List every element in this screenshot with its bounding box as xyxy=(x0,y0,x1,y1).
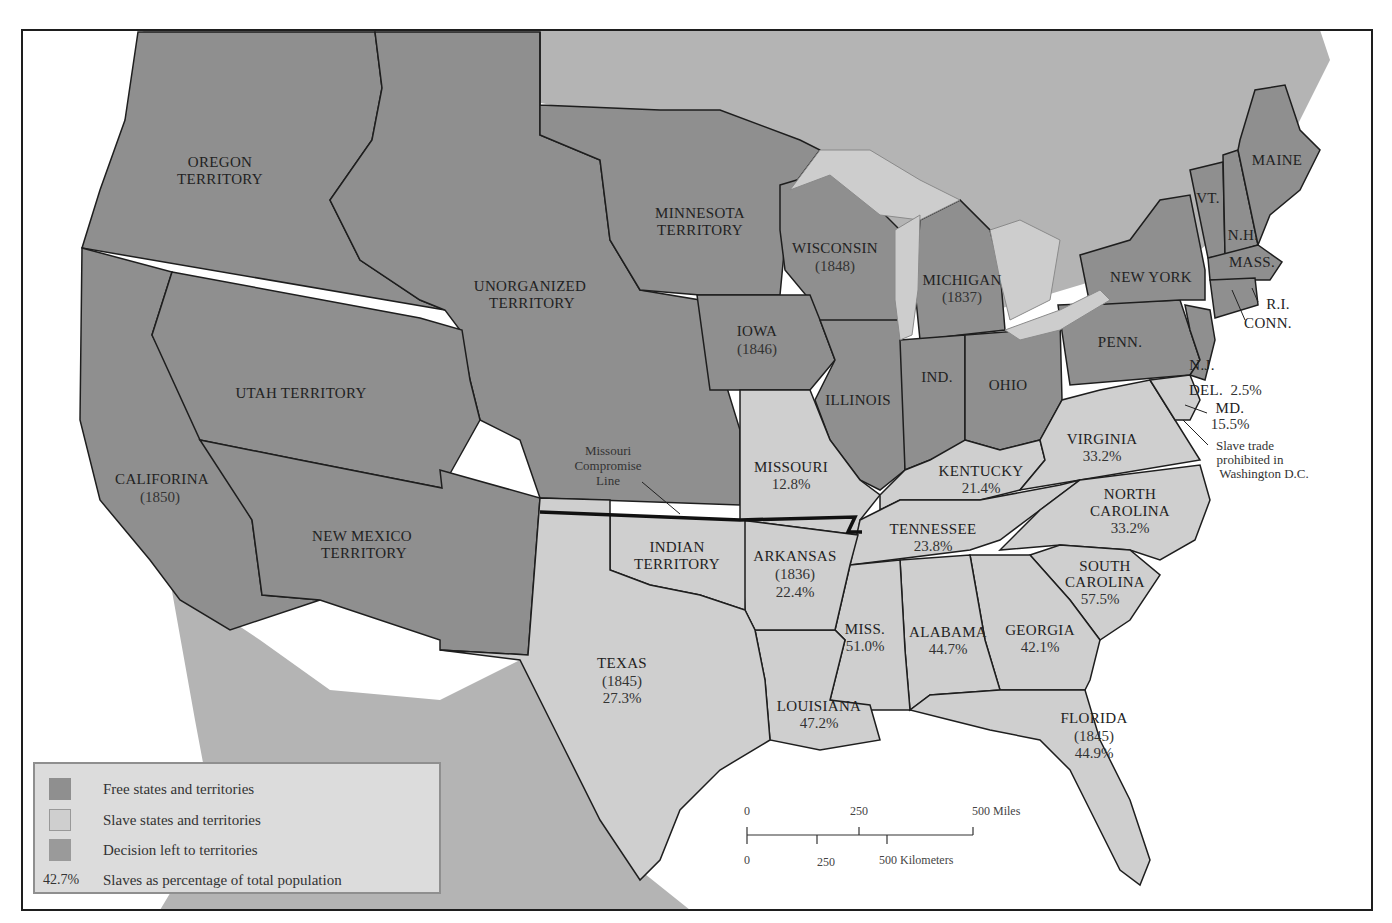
scale-km-250: 250 xyxy=(817,855,835,869)
legend-label-slave: Slave states and territories xyxy=(103,812,261,829)
label-vt: VT. xyxy=(1196,190,1220,206)
scale-miles-500: 500 Miles xyxy=(972,804,1021,818)
label-sc-2: CAROLINA xyxy=(1065,574,1145,590)
label-michigan: MICHIGAN xyxy=(922,272,1001,288)
label-texas-pct: 27.3% xyxy=(603,690,642,706)
legend-swatch-slave xyxy=(49,809,71,831)
label-nc-1: NORTH xyxy=(1104,486,1156,502)
label-arkansas: ARKANSAS xyxy=(753,548,836,564)
legend-item-percentage: 42.7% Slaves as percentage of total popu… xyxy=(35,865,342,895)
label-unorganized-1: UNORGANIZED xyxy=(474,278,586,294)
label-iowa-year: (1846) xyxy=(737,341,777,358)
label-penn: PENN. xyxy=(1098,334,1142,350)
label-missouri-pct: 12.8% xyxy=(772,476,811,492)
legend-item-free: Free states and territories xyxy=(35,774,254,804)
label-texas-year: (1845) xyxy=(602,673,642,690)
label-georgia: GEORGIA xyxy=(1005,622,1075,638)
label-alabama-pct: 44.7% xyxy=(929,641,968,657)
label-california: CALIFORINA xyxy=(115,471,209,487)
label-maine: MAINE xyxy=(1252,152,1303,168)
label-oregon-1: OREGON xyxy=(188,154,252,170)
label-dc-note-1: Slave trade xyxy=(1216,438,1274,453)
label-michigan-year: (1837) xyxy=(942,289,982,306)
label-nc-2: CAROLINA xyxy=(1090,503,1170,519)
label-virginia: VIRGINIA xyxy=(1067,431,1138,447)
label-florida-year: (1845) xyxy=(1074,728,1114,745)
scale-km-0: 0 xyxy=(744,853,750,867)
legend-swatch-decision xyxy=(49,839,71,861)
label-mass: MASS. xyxy=(1229,254,1275,270)
label-alabama: ALABAMA xyxy=(909,624,987,640)
label-minnesota-2: TERRITORY xyxy=(657,222,743,238)
legend-pct-example: 42.7% xyxy=(43,872,93,888)
scale-miles-250: 250 xyxy=(850,804,868,818)
legend-pct-label: Slaves as percentage of total population xyxy=(103,872,342,889)
label-arkansas-year: (1836) xyxy=(775,566,815,583)
label-iowa: IOWA xyxy=(737,323,777,339)
label-indian-2: TERRITORY xyxy=(634,556,720,572)
label-wisconsin: WISCONSIN xyxy=(792,240,878,256)
label-minnesota-1: MINNESOTA xyxy=(655,205,745,221)
label-compromise-2: Compromise xyxy=(574,458,641,473)
label-illinois: ILLINOIS xyxy=(825,392,891,408)
label-md-pct: 15.5% xyxy=(1211,416,1250,432)
label-del-pct: 2.5% xyxy=(1230,382,1261,398)
label-oregon-2: TERRITORY xyxy=(177,171,263,187)
legend-item-decision: Decision left to territories xyxy=(35,835,258,865)
label-louisiana-pct: 47.2% xyxy=(800,715,839,731)
label-wisconsin-year: (1848) xyxy=(815,258,855,275)
label-new-mexico-2: TERRITORY xyxy=(321,545,407,561)
label-sc-pct: 57.5% xyxy=(1081,591,1120,607)
label-georgia-pct: 42.1% xyxy=(1021,639,1060,655)
label-nc-pct: 33.2% xyxy=(1111,520,1150,536)
label-kentucky: KENTUCKY xyxy=(939,463,1024,479)
label-ri: R.I. xyxy=(1266,296,1290,312)
label-texas: TEXAS xyxy=(597,655,647,671)
label-sc-1: SOUTH xyxy=(1079,558,1131,574)
label-miss-pct: 51.0% xyxy=(846,638,885,654)
scale-km-500: 500 Kilometers xyxy=(879,853,954,867)
label-louisiana: LOUISIANA xyxy=(777,698,861,714)
label-tennessee: TENNESSEE xyxy=(890,521,977,537)
label-tennessee-pct: 23.8% xyxy=(914,538,953,554)
label-unorganized-2: TERRITORY xyxy=(489,295,575,311)
label-indian-1: INDIAN xyxy=(649,539,704,555)
legend-item-slave: Slave states and territories xyxy=(35,805,261,835)
label-dc-note-3: Washington D.C. xyxy=(1219,466,1309,481)
label-new-mexico-1: NEW MEXICO xyxy=(312,528,412,544)
label-florida: FLORIDA xyxy=(1060,710,1127,726)
scale-miles-0: 0 xyxy=(744,804,750,818)
label-new-york: NEW YORK xyxy=(1110,269,1192,285)
label-florida-pct: 44.9% xyxy=(1075,745,1114,761)
label-indiana: IND. xyxy=(921,369,953,385)
label-conn: CONN. xyxy=(1244,315,1292,331)
label-virginia-pct: 33.2% xyxy=(1083,448,1122,464)
label-compromise-1: Missouri xyxy=(585,443,632,458)
label-dc-note-2: prohibited in xyxy=(1217,452,1284,467)
label-arkansas-pct: 22.4% xyxy=(776,584,815,600)
label-california-year: (1850) xyxy=(140,489,180,506)
label-del: DEL. xyxy=(1189,382,1223,398)
label-utah: UTAH TERRITORY xyxy=(235,385,366,401)
label-nh: N.H. xyxy=(1228,227,1258,243)
label-nj: N.J. xyxy=(1189,357,1214,373)
legend-label-decision: Decision left to territories xyxy=(103,842,258,859)
label-miss: MISS. xyxy=(845,621,885,637)
legend: Free states and territories Slave states… xyxy=(33,762,441,894)
label-compromise-3: Line xyxy=(596,473,620,488)
label-ohio: OHIO xyxy=(989,377,1028,393)
label-kentucky-pct: 21.4% xyxy=(962,480,1001,496)
label-missouri: MISSOURI xyxy=(754,459,828,475)
legend-swatch-free xyxy=(49,778,71,800)
legend-label-free: Free states and territories xyxy=(103,781,254,798)
label-md: MD. xyxy=(1216,400,1245,416)
